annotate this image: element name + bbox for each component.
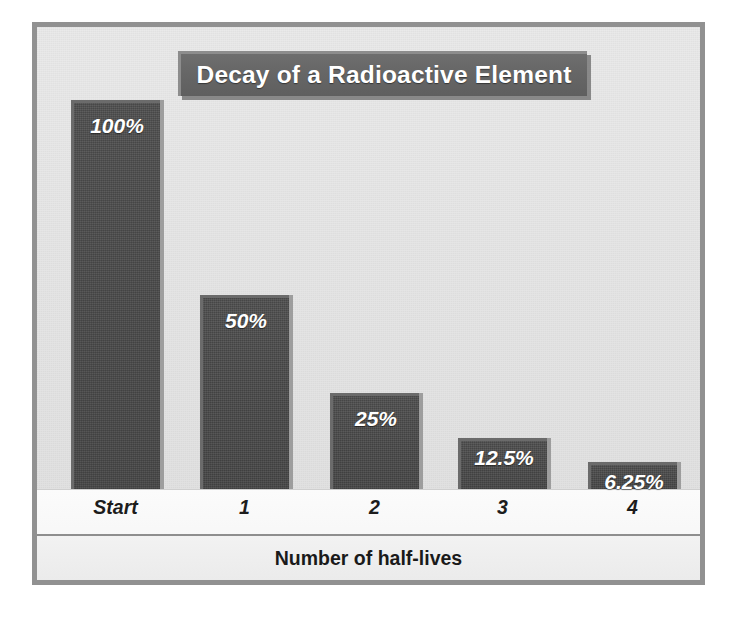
bar-value-label: 12.5%: [474, 446, 534, 470]
x-axis-title: Number of half-lives: [275, 547, 462, 570]
x-axis-tick-label: Start: [71, 496, 160, 519]
bar-group: 12.5%: [458, 438, 547, 490]
bar-value-label: 6.25%: [604, 470, 664, 494]
bar[interactable]: 100%: [71, 100, 160, 490]
bar-value-label: 25%: [355, 407, 397, 431]
bar-group: 100%: [71, 100, 160, 490]
x-axis-tick-label: 1: [200, 496, 289, 519]
bar-group: 50%: [200, 295, 289, 490]
bar[interactable]: 6.25%: [588, 462, 677, 490]
bar[interactable]: 50%: [200, 295, 289, 490]
bar-value-label: 50%: [225, 309, 267, 333]
chart-figure-frame: Decay of a Radioactive Element 100%50%25…: [32, 22, 705, 585]
x-axis-tick-row: Start1234: [37, 490, 700, 536]
x-axis-tick-label: 4: [588, 496, 677, 519]
bar-group: 25%: [330, 393, 419, 490]
bar[interactable]: 12.5%: [458, 438, 547, 490]
x-axis-title-row: Number of half-lives: [37, 536, 700, 580]
bar-value-label: 100%: [90, 114, 144, 138]
bar[interactable]: 25%: [330, 393, 419, 490]
bar-texture: [74, 103, 160, 490]
x-axis-tick-label: 3: [458, 496, 547, 519]
x-axis-band: Start1234 Number of half-lives: [37, 489, 700, 580]
bar-group: 6.25%: [588, 462, 677, 490]
x-axis-tick-label: 2: [330, 496, 419, 519]
